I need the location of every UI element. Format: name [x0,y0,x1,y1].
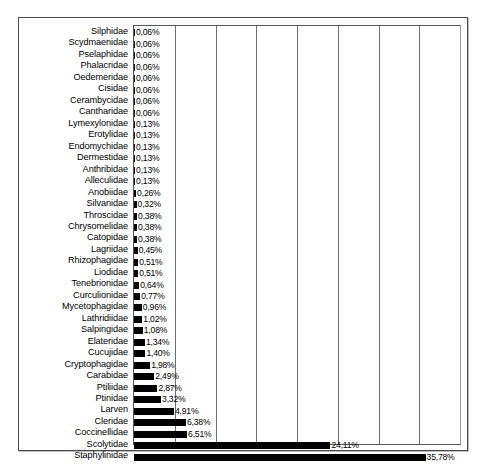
bar-row: 0,06% [134,50,460,61]
bar-row: 4,91% [134,405,460,416]
bar-row: 0,06% [134,61,460,72]
category-label: Phalacridae [25,60,133,71]
bar-series: 0,06%0,06%0,06%0,06%0,06%0,06%0,06%0,06%… [134,26,460,444]
bar-row: 0,13% [134,130,460,141]
bar [134,396,161,403]
bar-row: 24,11% [134,440,460,451]
bar-value-label: 0,06% [135,28,159,37]
bar [134,362,150,369]
bar-chart: SilphidaeScydmaenidaePselaphidaePhalacri… [25,25,461,445]
bar-value-label: 0,13% [135,143,159,152]
bar-value-label: 0,13% [135,131,159,140]
category-label: Anthribidae [25,164,133,175]
bar [134,454,426,461]
bar [134,350,145,357]
bar-value-label: 1,08% [143,326,167,335]
bar-row: 0,77% [134,291,460,302]
bar-value-label: 0,13% [135,154,159,163]
bar-value-label: 0,13% [135,120,159,129]
bar-row: 0,45% [134,245,460,256]
bar-value-label: 0,06% [135,51,159,60]
bar-value-label: 4,91% [174,407,198,416]
bar-row: 2,87% [134,383,460,394]
bar-value-label: 35,78% [426,453,455,462]
category-label: Cucujidae [25,347,133,358]
bar-value-label: 3,32% [161,395,185,404]
category-label: Ptinidae [25,393,133,404]
bar-value-label: 0,38% [137,235,161,244]
bar-value-label: 0,06% [135,97,159,106]
bar-value-label: 24,11% [330,441,358,450]
category-label: Lymexylonidae [25,118,133,129]
category-label: Curculionidae [25,290,133,301]
category-label: Staphylinidae [25,450,133,461]
screenshot-canvas: SilphidaeScydmaenidaePselaphidaePhalacri… [0,0,486,470]
category-label: Oedemeridae [25,72,133,83]
bar-row: 3,32% [134,394,460,405]
bar-row: 0,06% [134,84,460,95]
bar-row: 0,26% [134,188,460,199]
category-label: Coccinellidae [25,427,133,438]
category-label: Lathridiidae [25,313,133,324]
category-label: Pselaphidae [25,49,133,60]
plot-area: 0,06%0,06%0,06%0,06%0,06%0,06%0,06%0,06%… [133,25,461,445]
bar-value-label: 0,06% [135,109,159,118]
bar-value-label: 0,38% [137,212,161,221]
bar-value-label: 1,34% [145,338,169,347]
category-label: Scydmaenidae [25,37,133,48]
bar-row: 0,51% [134,268,460,279]
category-label: Ptiliidae [25,382,133,393]
bar-row: 1,08% [134,325,460,336]
category-label: Carabidae [25,370,133,381]
bar [134,373,154,380]
bar [134,316,142,323]
category-label: Scolytidae [25,439,133,450]
category-label: Endomychidae [25,141,133,152]
bar-value-label: 0,13% [135,166,159,175]
bar [134,442,330,449]
bar-value-label: 0,45% [138,246,162,255]
category-label: Erotylidae [25,129,133,140]
bar-value-label: 0,77% [140,292,164,301]
category-label: Silphidae [25,26,133,37]
bar-row: 0,96% [134,302,460,313]
bar-value-label: 0,64% [139,281,163,290]
bar [134,385,157,392]
category-label: Throscidae [25,210,133,221]
bar-row: 0,38% [134,233,460,244]
bar [134,419,186,426]
bar-row: 35,78% [134,451,460,462]
bar-value-label: 0,06% [135,63,159,72]
bar [134,431,187,438]
bar-row: 0,13% [134,176,460,187]
category-label: Chrysomelidae [25,221,133,232]
bar-row: 1,40% [134,348,460,359]
bar-value-label: 0,51% [138,258,162,267]
category-label: Alleculidae [25,175,133,186]
category-label: Cryptophagidae [25,359,133,370]
bar-value-label: 6,51% [187,430,211,439]
category-label: Lagriidae [25,244,133,255]
category-label: Cisidae [25,83,133,94]
bar-row: 0,13% [134,165,460,176]
category-label: Cleridae [25,416,133,427]
bar-row: 0,51% [134,256,460,267]
bar-row: 0,32% [134,199,460,210]
bar-row: 0,06% [134,73,460,84]
bar-row: 1,34% [134,337,460,348]
bar-row: 6,38% [134,417,460,428]
bar [134,304,142,311]
bar-row: 0,38% [134,211,460,222]
bar-row: 0,06% [134,27,460,38]
category-label: Cerambycidae [25,95,133,106]
category-label: Elateridae [25,336,133,347]
bar-value-label: 0,06% [135,74,159,83]
bar-row: 0,64% [134,279,460,290]
category-label: Tenebrionidae [25,278,133,289]
bar-row: 6,51% [134,428,460,439]
bar-value-label: 0,51% [138,269,162,278]
category-label: Rhizophagidae [25,255,133,266]
category-label: Silvanidae [25,198,133,209]
bar-row: 0,13% [134,119,460,130]
bar-value-label: 0,06% [135,86,159,95]
